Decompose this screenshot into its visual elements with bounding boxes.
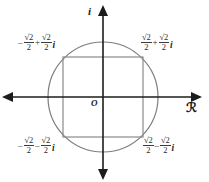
real-fraction-bottom-left: √2 2 (24, 136, 35, 155)
real-sign-bottom-left: – (17, 141, 24, 150)
diagram-canvas (0, 0, 209, 182)
imaginary-unit-top-right: i (169, 41, 173, 51)
complex-plane-diagram: i ℛ O – √2 2 + √2 2 i √2 2 + √2 2 i – (0, 0, 209, 182)
imaginary-unit-top-left: i (52, 41, 56, 51)
real-fraction-top-right: √2 2 (141, 33, 152, 52)
point-label-top-right: √2 2 + √2 2 i (139, 33, 173, 52)
imaginary-unit-bottom-left: i (51, 144, 55, 154)
real-sign-top-left: – (17, 38, 24, 47)
real-axis-label: ℛ (186, 101, 197, 114)
imaginary-axis-label: i (88, 6, 91, 17)
imag-sign-top-left: + (34, 38, 41, 47)
real-fraction-top-left: √2 2 (24, 33, 35, 52)
imaginary-unit-bottom-right: i (171, 144, 175, 154)
point-label-bottom-right: √2 2 – √2 2 i (141, 136, 174, 155)
point-label-bottom-left: – √2 2 – √2 2 i (17, 136, 55, 155)
imag-fraction-bottom-left: √2 2 (41, 136, 52, 155)
imag-fraction-bottom-right: √2 2 (160, 136, 171, 155)
real-axis-arrow-left (2, 92, 13, 102)
imaginary-axis-arrow-up (98, 5, 108, 16)
imag-sign-bottom-left: – (34, 141, 41, 150)
imag-fraction-top-right: √2 2 (159, 33, 170, 52)
imaginary-axis-arrow-down (98, 169, 108, 180)
point-label-top-left: – √2 2 + √2 2 i (17, 33, 55, 52)
real-fraction-bottom-right: √2 2 (143, 136, 154, 155)
imag-sign-top-right: + (152, 38, 159, 47)
origin-label: O (91, 99, 98, 108)
imag-sign-bottom-right: – (154, 141, 161, 150)
imag-fraction-top-left: √2 2 (41, 33, 52, 52)
